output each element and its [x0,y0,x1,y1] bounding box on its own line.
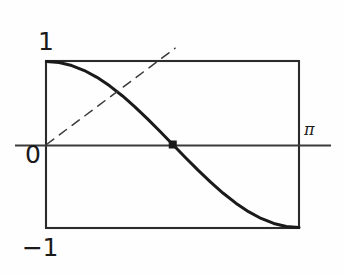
y-min-label: −1 [22,235,58,260]
origin-label: 0 [25,142,41,167]
y-max-label: 1 [38,29,54,54]
x-end-label: π [304,122,315,138]
zero-crossing-marker [169,141,177,149]
cosine-figure: 1 0 −1 π [0,0,343,276]
